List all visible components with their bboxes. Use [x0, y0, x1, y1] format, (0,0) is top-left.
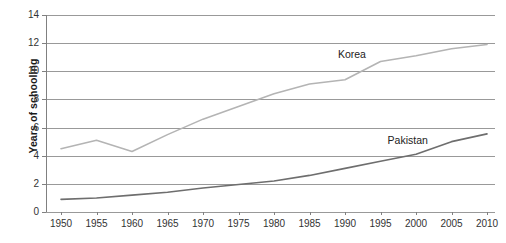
- series-label-pakistan: Pakistan: [388, 134, 428, 146]
- chart-canvas: [0, 0, 506, 243]
- series-label-korea: Korea: [338, 48, 366, 60]
- line-chart: Years of schooling 02468101214 195019551…: [0, 0, 506, 243]
- plot-area: [0, 0, 506, 243]
